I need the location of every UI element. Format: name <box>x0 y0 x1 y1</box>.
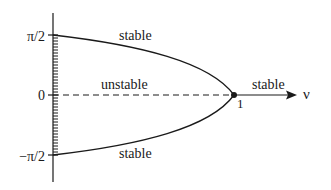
x-axis-label-nu: ν <box>303 86 310 102</box>
x-tick-label-one: 1 <box>237 96 244 111</box>
y-label-pi-half: π/2 <box>27 29 45 44</box>
label-lower-stable: stable <box>119 146 152 161</box>
label-unstable: unstable <box>101 77 148 92</box>
label-upper-stable: stable <box>119 28 152 43</box>
label-right-stable: stable <box>252 77 285 92</box>
bifurcation-diagram: π/2 0 −π/2 stable unstable stable stable… <box>0 0 331 190</box>
y-label-neg-pi-half: −π/2 <box>19 149 45 164</box>
y-label-zero: 0 <box>38 88 45 103</box>
